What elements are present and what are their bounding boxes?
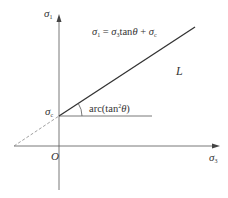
line-label-L: L	[176, 65, 183, 77]
x-axis-arrow-icon	[212, 144, 220, 149]
angle-prefix: arc(tan	[89, 103, 118, 114]
y-axis-label: σ1	[44, 8, 52, 20]
intercept-label: σc	[45, 106, 53, 118]
eq-t2-sub: c	[154, 32, 157, 38]
dashed-extension-line	[14, 116, 59, 146]
eq-t1-func: tan	[120, 26, 133, 37]
eq-plus: +	[138, 26, 149, 37]
angle-label: arc(tan2θ)	[89, 103, 130, 115]
intercept-sub: c	[50, 112, 53, 118]
x-axis-subscript: 3	[214, 158, 217, 164]
x-axis-label: σ3	[209, 152, 217, 164]
origin-label: O	[51, 151, 59, 162]
equation-label: σ1 = σ3tanθ + σc	[92, 27, 157, 38]
y-axis-subscript: 1	[49, 14, 52, 20]
y-axis-arrow-icon	[57, 14, 62, 22]
eq-equals: =	[100, 26, 111, 37]
angle-suffix: )	[126, 103, 130, 114]
angle-arc	[78, 104, 82, 117]
